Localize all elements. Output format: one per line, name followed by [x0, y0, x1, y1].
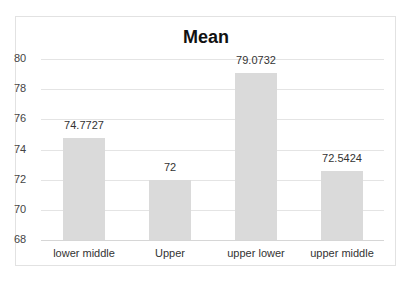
chart-title: Mean	[0, 27, 412, 48]
x-category-label: lower middle	[39, 247, 129, 259]
data-label: 72.5424	[302, 152, 382, 164]
y-tick-label: 70	[14, 203, 36, 215]
bar-upper-lower	[235, 73, 277, 240]
gridline	[41, 59, 384, 60]
bar-upper-middle	[321, 171, 363, 240]
x-category-label: upper middle	[297, 247, 387, 259]
y-tick-label: 78	[14, 82, 36, 94]
y-tick-label: 76	[14, 112, 36, 124]
bar-upper	[149, 180, 191, 240]
x-category-label: upper lower	[211, 247, 301, 259]
gridline	[41, 89, 384, 90]
y-tick-label: 72	[14, 173, 36, 185]
data-label: 74.7727	[44, 119, 124, 131]
y-tick-label: 68	[14, 233, 36, 245]
data-label: 79.0732	[216, 54, 296, 66]
y-tick-label: 80	[14, 52, 36, 64]
y-tick-label: 74	[14, 143, 36, 155]
bar-lower-middle	[63, 138, 105, 240]
data-label: 72	[130, 161, 210, 173]
x-category-label: Upper	[125, 247, 215, 259]
gridline	[41, 240, 384, 241]
